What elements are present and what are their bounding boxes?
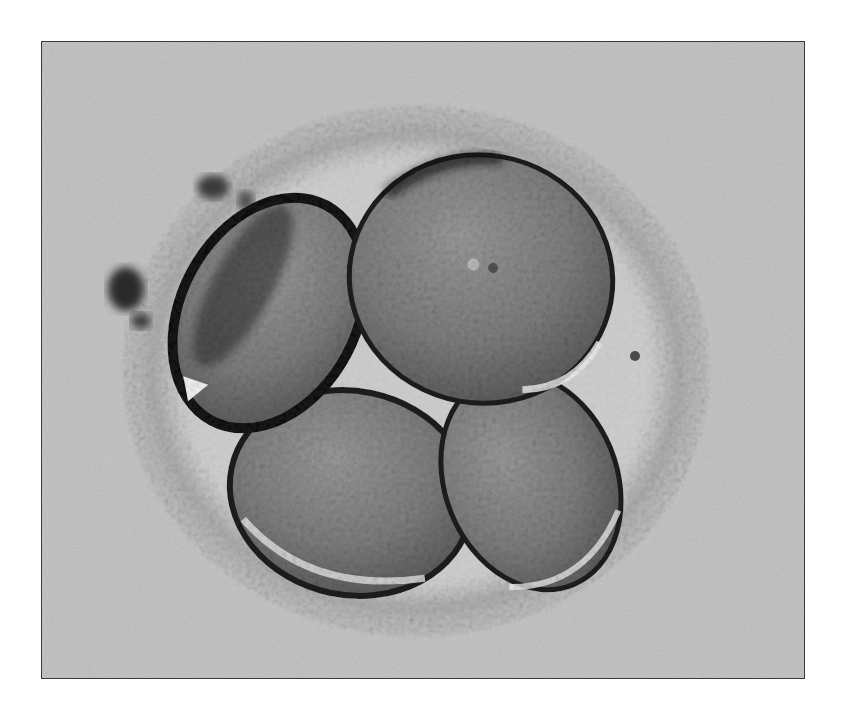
- micrograph-frame: [41, 41, 805, 679]
- embryo-micrograph: [41, 41, 805, 679]
